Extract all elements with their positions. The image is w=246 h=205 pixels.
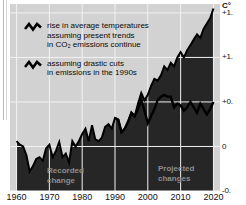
- annotation-line-2: change: [47, 176, 84, 186]
- annotation-line-1: Recorded: [47, 166, 84, 176]
- x-axis-tick-label: 2000: [138, 192, 158, 202]
- x-axis: 1960197019801990200020102020: [0, 192, 246, 205]
- x-axis-tick-label: 1980: [72, 192, 92, 202]
- legend-line-2: assuming present trends: [47, 31, 149, 41]
- x-axis-tick-label: 1990: [105, 192, 125, 202]
- legend-line-1: rise in average temperatures: [47, 21, 149, 31]
- y-axis-tick-label: +1.: [222, 52, 233, 61]
- legend-line-3: in CO₂ emissions continue: [47, 40, 149, 50]
- annotation-line-2: changes: [158, 174, 194, 184]
- legend-line-2: in emissions in the 1990s: [47, 68, 137, 78]
- chart-legend: rise in average temperatures assuming pr…: [24, 21, 149, 87]
- page-edge-line: [3, 0, 4, 120]
- page-edge-line-secondary: [6, 0, 7, 120]
- y-axis-tick-label: 0: [222, 142, 226, 151]
- legend-item-drastic-cuts: assuming drastic cuts in emissions in th…: [24, 59, 149, 78]
- annotation-line-1: Projected: [158, 164, 194, 174]
- y-axis-tick-label: +0.: [222, 97, 233, 106]
- annotation-projected-changes: Projected changes: [158, 164, 194, 183]
- legend-item-present-trends-label: rise in average temperatures assuming pr…: [47, 21, 149, 50]
- legend-item-present-trends: rise in average temperatures assuming pr…: [24, 21, 149, 50]
- y-axis-tick-label: -0.: [222, 186, 231, 195]
- zigzag-line-icon: [24, 60, 42, 71]
- x-axis-tick-label: 1970: [39, 192, 59, 202]
- x-axis-tick-label: 2020: [203, 192, 223, 202]
- y-axis-tick-label: +1.: [222, 8, 233, 17]
- legend-item-drastic-cuts-label: assuming drastic cuts in emissions in th…: [47, 59, 137, 78]
- temperature-chart: rise in average temperatures assuming pr…: [10, 4, 220, 191]
- annotation-recorded-change: Recorded change: [47, 166, 84, 185]
- x-axis-tick-label: 2010: [171, 192, 191, 202]
- zigzag-line-icon: [24, 22, 42, 33]
- legend-line-1: assuming drastic cuts: [47, 59, 137, 69]
- x-axis-tick-label: 1960: [7, 192, 27, 202]
